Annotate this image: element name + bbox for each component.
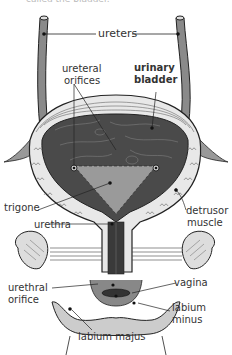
pubic-bone-left bbox=[15, 231, 47, 269]
label-ureteral-orifices-line1: ureteral bbox=[62, 63, 101, 74]
label-detrusor-line1: detrusor bbox=[186, 205, 228, 216]
label-labium-minus-line2: minus bbox=[172, 314, 202, 325]
label-urethral-orifice-line2: orifice bbox=[8, 294, 39, 305]
label-vagina: vagina bbox=[174, 277, 208, 288]
pubic-bone-right bbox=[182, 231, 214, 269]
label-detrusor-line2: muscle bbox=[187, 217, 223, 228]
label-ureteral-orifices-line2: orifices bbox=[64, 75, 100, 86]
label-urinary-bladder-line1: urinary bbox=[134, 62, 175, 73]
label-labium-minus-line1: labium bbox=[172, 302, 206, 313]
label-urethral-orifice-line1: urethral bbox=[8, 282, 48, 293]
label-ureters: ureters bbox=[98, 28, 137, 39]
label-labium-majus: labium majus bbox=[78, 331, 146, 342]
label-urethra: urethra bbox=[34, 219, 71, 230]
label-urinary-bladder-line2: bladder bbox=[134, 74, 177, 85]
label-trigone: trigone bbox=[4, 202, 40, 213]
